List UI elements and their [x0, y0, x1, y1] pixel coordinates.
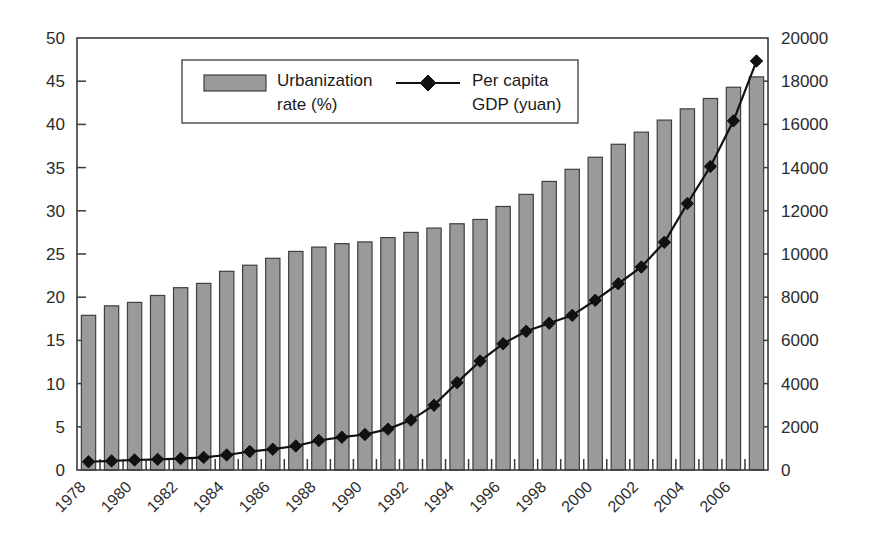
- right-axis-labels: 0200040006000800010000120001400016000180…: [781, 29, 828, 480]
- x-tick-label: 1992: [374, 478, 411, 515]
- bar: [588, 157, 602, 470]
- left-tick-label: 10: [46, 375, 65, 394]
- left-tick-label: 20: [46, 288, 65, 307]
- bar: [473, 219, 487, 470]
- left-tick-label: 50: [46, 29, 65, 48]
- right-tick-label: 20000: [781, 29, 828, 48]
- left-tick-label: 30: [46, 202, 65, 221]
- bar: [611, 144, 625, 470]
- bar: [243, 265, 257, 470]
- x-tick-label: 1986: [236, 478, 273, 515]
- right-tick-label: 18000: [781, 72, 828, 91]
- right-tick-label: 2000: [781, 418, 819, 437]
- left-axis-labels: 05101520253035404550: [46, 29, 65, 480]
- x-tick-label: 1984: [190, 478, 227, 515]
- x-tick-label: 2002: [604, 478, 641, 515]
- right-tick-label: 12000: [781, 202, 828, 221]
- x-tick-label: 1994: [420, 478, 457, 515]
- left-tick-label: 35: [46, 159, 65, 178]
- legend-swatch-urbanization: [204, 75, 266, 91]
- x-axis-labels: 1978198019821984198619881990199219941996…: [51, 478, 733, 515]
- chart-legend: Urbanization rate (%) Per capita GDP (yu…: [182, 60, 578, 123]
- bar: [680, 109, 694, 470]
- urbanization-gdp-chart: 05101520253035404550 0200040006000800010…: [0, 0, 884, 545]
- bar: [726, 87, 740, 470]
- right-tick-label: 16000: [781, 115, 828, 134]
- right-tick-label: 0: [781, 461, 790, 480]
- bar: [289, 251, 303, 470]
- legend-label-urbanization-line2: rate (%): [277, 95, 337, 114]
- right-tick-label: 4000: [781, 375, 819, 394]
- right-tick-label: 6000: [781, 331, 819, 350]
- bar: [427, 228, 441, 470]
- bar: [197, 283, 211, 470]
- left-tick-label: 5: [56, 418, 65, 437]
- legend-label-urbanization-line1: Urbanization: [277, 71, 372, 90]
- x-tick-label: 1998: [512, 478, 549, 515]
- x-tick-label: 2006: [696, 478, 733, 515]
- right-tick-label: 8000: [781, 288, 819, 307]
- bar: [657, 120, 671, 470]
- bar: [266, 258, 280, 470]
- bar-series-urbanization-rate: [81, 77, 763, 470]
- chart-container: 05101520253035404550 0200040006000800010…: [0, 0, 884, 545]
- bar: [174, 288, 188, 470]
- right-tick-label: 14000: [781, 159, 828, 178]
- bar: [127, 302, 141, 470]
- x-tick-label: 1980: [98, 478, 135, 515]
- bar: [749, 77, 763, 470]
- x-tick-label: 1982: [144, 478, 181, 515]
- x-tick-label: 2004: [650, 478, 687, 515]
- bar: [104, 306, 118, 470]
- legend-label-gdp-line2: GDP (yuan): [472, 95, 561, 114]
- legend-label-gdp-line1: Per capita: [472, 71, 549, 90]
- left-tick-label: 15: [46, 331, 65, 350]
- x-tick-label: 1988: [282, 478, 319, 515]
- bar: [220, 271, 234, 470]
- left-tick-label: 45: [46, 72, 65, 91]
- x-tick-label: 1978: [51, 478, 88, 515]
- gdp-marker: [750, 55, 762, 67]
- right-tick-label: 10000: [781, 245, 828, 264]
- bar: [81, 315, 95, 470]
- bar: [450, 224, 464, 470]
- x-tick-label: 1996: [466, 478, 503, 515]
- bar: [150, 295, 164, 470]
- bar: [404, 232, 418, 470]
- bar: [634, 132, 648, 470]
- x-tick-label: 2000: [558, 478, 595, 515]
- x-tick-label: 1990: [328, 478, 365, 515]
- left-tick-label: 40: [46, 115, 65, 134]
- left-tick-label: 0: [56, 461, 65, 480]
- left-tick-label: 25: [46, 245, 65, 264]
